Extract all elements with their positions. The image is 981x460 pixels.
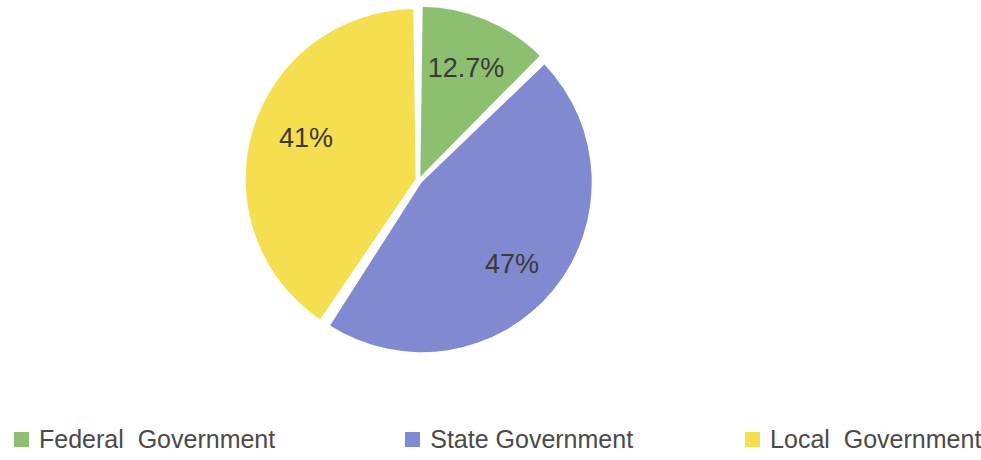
pie-label-local: 41% xyxy=(279,123,333,153)
legend-swatch-federal-icon xyxy=(14,432,29,447)
legend-swatch-local-icon xyxy=(745,432,760,447)
pie-label-state: 47% xyxy=(485,249,539,279)
legend-swatch-state-icon xyxy=(405,432,420,447)
pie-slices xyxy=(246,7,592,352)
legend-label-local: Local Government xyxy=(770,427,981,452)
legend-label-federal: Federal Government xyxy=(39,427,275,452)
legend-item-federal-government[interactable]: Federal Government xyxy=(14,418,275,460)
pie-label-federal: 12.7% xyxy=(428,53,505,83)
chart-legend: Federal Government State Government Loca… xyxy=(0,418,833,460)
pie-chart: 12.7% 47% 41% xyxy=(0,0,833,400)
legend-item-local-government[interactable]: Local Government xyxy=(745,418,981,460)
legend-item-state-government[interactable]: State Government xyxy=(405,418,633,460)
legend-label-state: State Government xyxy=(430,427,633,452)
pie-chart-svg: 12.7% 47% 41% xyxy=(0,0,833,400)
